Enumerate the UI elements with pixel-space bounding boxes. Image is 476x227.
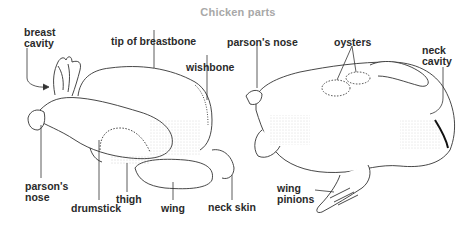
- left-chicken: [28, 57, 234, 189]
- label-neck-cavity-line2: cavity: [422, 56, 452, 67]
- label-neck-skin: neck skin: [208, 202, 256, 213]
- label-thigh: thigh: [116, 194, 142, 205]
- label-wing-pinions-line2: pinions: [277, 194, 314, 205]
- label-drumstick: drumstick: [71, 203, 121, 214]
- label-tip-of-breastbone: tip of breastbone: [111, 36, 196, 47]
- label-parsons-nose-right: parson's nose: [227, 37, 298, 48]
- label-oysters: oysters: [334, 37, 371, 48]
- label-breast-cavity-line2: cavity: [24, 38, 54, 49]
- label-wing: wing: [161, 203, 185, 214]
- label-parsons-nose-left-line2: nose: [25, 192, 50, 203]
- label-wishbone: wishbone: [186, 62, 234, 73]
- chicken-illustrations: [0, 0, 476, 227]
